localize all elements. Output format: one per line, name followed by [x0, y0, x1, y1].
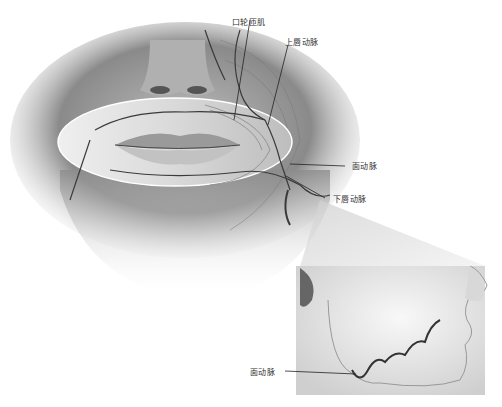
lip-cutaway-oval [58, 98, 292, 186]
label-inferior-labial-artery: 下唇动脉 [333, 193, 366, 204]
label-facial-artery-inset: 面动脉 [250, 366, 275, 377]
figure-stage: 口轮匝肌 上唇动脉 面动脉 下唇动脉 面动脉 [0, 0, 502, 407]
label-facial-artery-main: 面动脉 [352, 160, 377, 171]
illustration-canvas [0, 0, 502, 407]
label-orbicularis-oris: 口轮匝肌 [232, 16, 265, 27]
label-superior-labial-artery: 上唇动脉 [285, 36, 318, 47]
lateral-inset-view [296, 266, 487, 395]
